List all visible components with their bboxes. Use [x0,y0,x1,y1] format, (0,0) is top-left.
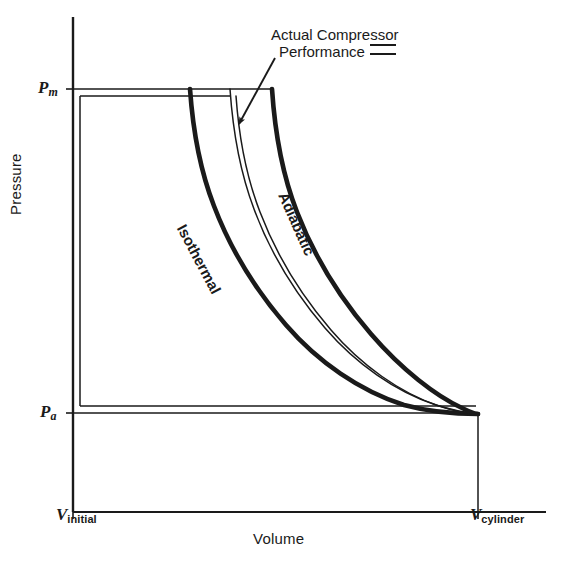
annotation-actual-compressor: Actual Compressor Performance [271,27,399,61]
annotation-leader-line [239,58,275,124]
tick-vinitial-subscript: initial [67,513,96,525]
curve-actual-compressor [230,89,478,414]
annotation-line-2: Performance [279,43,365,60]
y-tick-label-pm: Pm [38,78,58,99]
tick-pm-symbol: P [38,78,48,97]
axis-lines [73,17,546,512]
x-axis-title: Volume [253,531,304,548]
pv-diagram-figure: Pressure Volume Pm Pa Vinitial Vcylinder… [0,0,571,571]
annotation-line-1: Actual Compressor [271,26,399,43]
tick-pa-subscript: a [50,409,56,423]
curve-isothermal [190,89,478,414]
y-axis-title: Pressure [8,153,25,215]
x-tick-label-vcylinder: Vcylinder [470,505,524,525]
annotation-line-2-wrap: Performance [279,44,399,61]
tick-vinitial-symbol: V [56,505,67,524]
cycle-envelope [73,89,478,512]
tick-vcylinder-symbol: V [470,505,481,524]
tick-pm-subscript: m [48,85,57,99]
tick-vcylinder-subscript: cylinder [481,513,524,525]
tick-pa-symbol: P [40,402,50,421]
x-tick-label-vinitial: Vinitial [56,505,97,525]
plot-canvas [0,0,571,571]
y-tick-label-pa: Pa [40,402,56,423]
axis-tick-marks [66,89,478,519]
legend-double-line-swatch [370,44,396,55]
curve-actual-compressor-line-b [236,96,478,414]
curve-actual-compressor-line-a [230,89,478,414]
